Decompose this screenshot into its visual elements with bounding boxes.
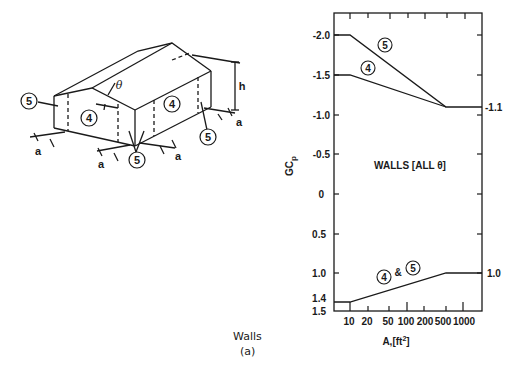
height-label: h (239, 80, 246, 92)
chart: 5 4 4 & 5 -2.0 -1.5 -1.0 -0.5 0 0.5 1.0 … (284, 13, 503, 347)
x-tick-label: 200 (417, 316, 434, 327)
y-tick-label: 0.5 (312, 229, 326, 240)
x-tick-label: 1000 (453, 316, 476, 327)
y-tick-label: 1.5 (312, 306, 326, 317)
y-tick-label: -1.5 (313, 70, 331, 81)
x-tick-label: 100 (398, 316, 415, 327)
x-tick-label: 10 (343, 316, 355, 327)
x-axis-label: A,[ft2] (382, 335, 409, 347)
x-tick-label: 500 (435, 316, 452, 327)
curve-label-ampersand: & (394, 267, 401, 278)
right-value-lower: 1.0 (487, 268, 501, 279)
curve-label-zone-4: 4 (365, 63, 371, 74)
angle-label: θ (116, 79, 123, 92)
zone-label: 5 (134, 154, 140, 166)
curve-zone-4 (334, 75, 446, 107)
curve-label-zone-5: 5 (382, 40, 388, 51)
zone-label: 4 (169, 98, 176, 110)
chart-annotation: WALLS [ALL θ] (374, 160, 446, 171)
curve-label-combined-5: 5 (410, 263, 416, 274)
dimension-label: a (35, 145, 42, 157)
curve-zones-4-5-positive (334, 273, 482, 302)
zone-label: 4 (86, 112, 93, 124)
y-tick-label: -2.0 (313, 30, 331, 41)
y-tick-label: 1.0 (312, 268, 326, 279)
right-value-upper: -1.1 (485, 102, 503, 113)
dimension-label: a (236, 116, 243, 128)
dimension-label: a (175, 150, 182, 162)
x-tick-label: 20 (361, 316, 373, 327)
x-tick-label: 50 (382, 316, 394, 327)
y-axis-label: GCp (284, 156, 298, 176)
figure-canvas: 5 4 4 5 5 a a a a h θ (0, 0, 517, 384)
y-tick-label: 0 (318, 189, 324, 200)
curve-zone-5 (334, 35, 482, 107)
zone-label: 5 (205, 131, 211, 143)
y-tick-label: -1.0 (313, 110, 331, 121)
zone-label: 5 (26, 95, 32, 107)
y-tick-label: -0.5 (313, 149, 331, 160)
y-tick-label: 1.4 (312, 293, 326, 304)
figure-caption-sub: (a) (240, 345, 255, 358)
dimension-label: a (98, 158, 105, 170)
figure-caption-title: Walls (233, 330, 262, 343)
curve-label-combined-4: 4 (381, 272, 387, 283)
